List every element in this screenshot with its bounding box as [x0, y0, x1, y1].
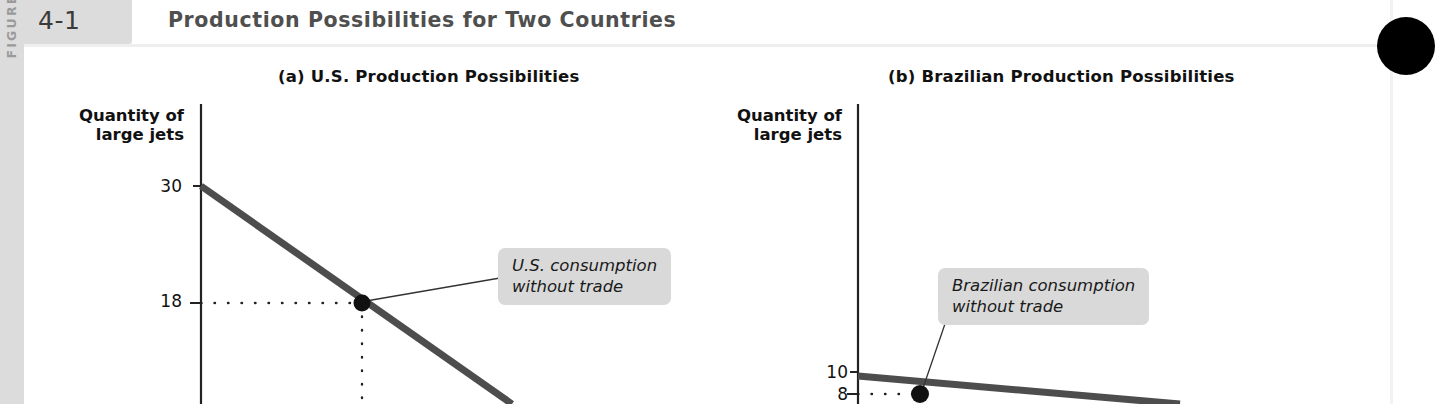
panel-b-title: (b) Brazilian Production Possibilities: [888, 67, 1235, 86]
panel-a-callout-line1: U.S. consumption: [512, 255, 657, 276]
panel-a-y-axis-label-line1: Quantity of: [20, 106, 184, 125]
panel-a-callout-leader: [366, 278, 500, 301]
panel-a-y-axis-label: Quantity of large jets: [20, 106, 184, 145]
panel-b-callout-leader: [922, 318, 947, 391]
panel-a-ytick-30: 30: [120, 176, 182, 196]
panel-b-y-axis-label-line2: large jets: [678, 125, 842, 144]
panel-a-callout: U.S. consumption without trade: [498, 248, 671, 305]
page-thumb-tab-icon: [1377, 17, 1435, 75]
panel-a-y-axis-label-line2: large jets: [20, 125, 184, 144]
panel-b-y-axis-label: Quantity of large jets: [678, 106, 842, 145]
panel-a-ytick-18: 18: [120, 291, 182, 311]
panel-a-consumption-point: [354, 295, 371, 312]
panel-b-consumption-point: [911, 385, 929, 403]
panel-b-callout-line2: without trade: [952, 296, 1135, 317]
panel-a-ppf-line: [201, 186, 512, 404]
header-divider: [24, 44, 1390, 47]
panel-a-callout-line2: without trade: [512, 276, 657, 297]
figure-number-chip: 4-1: [24, 0, 132, 44]
figure-title: Production Possibilities for Two Countri…: [168, 8, 676, 32]
figure-container: 4-1 Production Possibilities for Two Cou…: [0, 0, 1441, 404]
figure-number: 4-1: [38, 6, 80, 35]
panel-b-callout: Brazilian consumption without trade: [938, 268, 1149, 325]
panel-b-ppf-line: [858, 376, 1180, 404]
figure-side-strip: FIGURE: [0, 0, 24, 404]
panel-b-callout-line1: Brazilian consumption: [952, 275, 1135, 296]
chart-vector-layer: [0, 0, 1441, 404]
panel-b-ytick-10: 10: [790, 362, 848, 382]
panel-b-y-axis-label-line1: Quantity of: [678, 106, 842, 125]
panel-b-ytick-8: 8: [790, 384, 848, 404]
figure-header: 4-1 Production Possibilities for Two Cou…: [0, 0, 1390, 44]
figure-kicker-label: FIGURE: [0, 0, 24, 62]
panel-a-title: (a) U.S. Production Possibilities: [278, 67, 579, 86]
